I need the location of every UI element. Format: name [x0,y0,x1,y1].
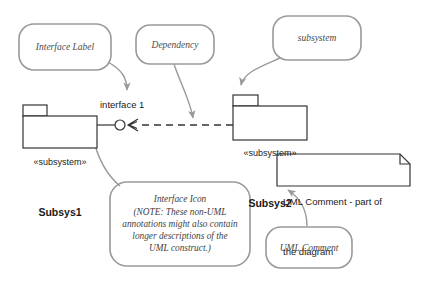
annotation-interface-icon-line-1: Interface Icon [110,193,250,205]
package-subsys1-labels: «subsystem» Subsys1 [23,119,97,256]
interface-name-label: interface 1 [100,99,144,110]
annotation-dependency: Dependency [136,25,214,64]
annotation-dependency-text: Dependency [136,40,214,50]
leader-line-dependency [174,64,193,118]
annotation-interface-icon-line-2: (NOTE: These non-UML [110,206,250,218]
annotation-uml-comment-text: UML Comment [266,243,352,253]
package-tab-subsys1 [23,105,47,116]
uml-note-line-1: UML Comment - part of [283,196,403,209]
annotation-interface-icon-line-5: UML construct.) [110,242,250,254]
interface-lollipop-group[interactable] [97,119,138,131]
uml-diagram-canvas: Interface Label Dependency subsystem «su… [0,0,421,284]
package-subsys1-stereotype: «subsystem» [23,157,97,168]
package-tab-subsys2 [233,95,258,106]
annotation-interface-icon-line-3: annotations might also contain [110,218,250,230]
annotation-interface-icon: Interface Icon (NOTE: These non-UML anno… [110,182,250,266]
annotation-interface-label-text: Interface Label [19,42,111,52]
package-subsys1-name: Subsys1 [23,206,97,218]
annotation-subsystem-text: subsystem [273,33,361,43]
leader-line-subsystem [241,58,280,85]
annotation-interface-icon-line-4: longer descriptions of the [110,230,250,242]
annotation-subsystem: subsystem [273,16,361,60]
interface-socket-icon [128,119,138,131]
package-subsys2-stereotype: «subsystem» [233,148,307,159]
annotation-interface-icon-text-block: Interface Icon (NOTE: These non-UML anno… [110,193,250,254]
interface-ball-icon [115,120,125,130]
annotation-uml-comment: UML Comment [266,227,352,268]
annotation-interface-label: Interface Label [19,24,111,70]
